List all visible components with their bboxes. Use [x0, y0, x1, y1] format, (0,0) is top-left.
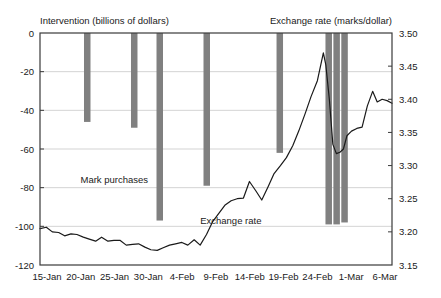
bar	[84, 33, 91, 122]
annotation-label: Mark purchases	[80, 174, 148, 185]
bar	[131, 33, 138, 128]
left-axis-title: Intervention (billions of dollars)	[40, 15, 169, 26]
bar	[341, 33, 348, 222]
x-tick-label: 15-Jan	[32, 271, 61, 282]
right-tick-label: 3.35	[399, 127, 418, 138]
x-tick-label: 1-Mar	[339, 271, 364, 282]
right-tick-label: 3.25	[399, 193, 418, 204]
x-tick-label: 6-Mar	[373, 271, 398, 282]
left-tick-label: -80	[20, 182, 34, 193]
right-tick-label: 3.20	[399, 226, 418, 237]
x-axis-tick-labels: 15-Jan20-Jan25-Jan30-Jan4-Feb9-Feb14-Feb…	[32, 271, 397, 282]
right-tick-label: 3.45	[399, 61, 418, 72]
intervention-exchange-rate-chart: Intervention (billions of dollars) Excha…	[0, 0, 441, 298]
right-tick-label: 3.50	[399, 28, 418, 39]
left-tick-label: -120	[15, 260, 34, 271]
left-tick-label: -20	[20, 66, 34, 77]
bar	[333, 33, 340, 224]
x-tick-label: 9-Feb	[204, 271, 229, 282]
right-tick-label: 3.30	[399, 160, 418, 171]
bar-series-mark-purchases	[84, 33, 348, 224]
x-tick-label: 19-Feb	[269, 271, 299, 282]
left-tick-label: -40	[20, 105, 34, 116]
bar	[203, 33, 210, 186]
bar	[157, 33, 164, 221]
x-tick-label: 24-Feb	[302, 271, 332, 282]
x-tick-label: 14-Feb	[235, 271, 265, 282]
annotation-label: Exchange rate	[200, 215, 261, 226]
x-tick-label: 25-Jan	[100, 271, 129, 282]
bar	[277, 33, 284, 153]
left-tick-label: -60	[20, 144, 34, 155]
left-tick-label: 0	[29, 28, 34, 39]
bar	[325, 33, 332, 224]
right-tick-label: 3.15	[399, 260, 418, 271]
x-tick-label: 30-Jan	[134, 271, 163, 282]
right-tick-label: 3.40	[399, 94, 418, 105]
chart-container: Intervention (billions of dollars) Excha…	[0, 0, 441, 298]
x-tick-label: 4-Feb	[170, 271, 195, 282]
left-tick-label: -100	[15, 221, 34, 232]
x-tick-label: 20-Jan	[66, 271, 95, 282]
right-axis-title: Exchange rate (marks/dollar)	[270, 15, 392, 26]
